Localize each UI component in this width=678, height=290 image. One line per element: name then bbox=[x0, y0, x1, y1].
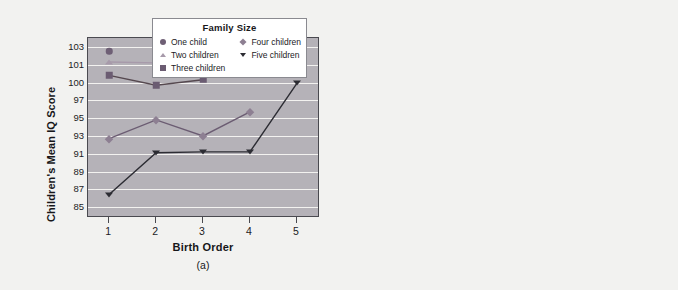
x-tick-mark bbox=[249, 217, 250, 223]
y-tick-label: 91 bbox=[56, 147, 84, 158]
triangle-up-marker-icon bbox=[158, 50, 167, 59]
triangle-up-marker-icon bbox=[160, 53, 166, 57]
panel-label-a: (a) bbox=[87, 259, 319, 271]
legend-item-two-children[interactable]: Two children bbox=[158, 49, 238, 60]
legend-item-label: Two children bbox=[171, 50, 219, 60]
legend-item-label: Four children bbox=[251, 37, 301, 47]
triangle-down-marker-icon bbox=[105, 192, 113, 197]
circle-marker-icon bbox=[106, 48, 113, 55]
series-line bbox=[109, 62, 156, 63]
legend-box: Family Size One childTwo childrenThree c… bbox=[152, 18, 307, 78]
y-tick-label: 87 bbox=[56, 183, 84, 194]
y-tick-label: 93 bbox=[56, 129, 84, 140]
triangle-down-marker-icon bbox=[246, 149, 254, 154]
legend-item-three-children[interactable]: Three children bbox=[158, 62, 238, 73]
legend-item-label: Five children bbox=[251, 50, 299, 60]
x-tick-label: 2 bbox=[145, 225, 165, 237]
x-tick-label: 4 bbox=[239, 225, 259, 237]
triangle-down-marker-icon bbox=[152, 150, 160, 155]
y-axis-ticks-a: 10310110097959391898785 bbox=[56, 37, 84, 217]
legend-item-label: One child bbox=[171, 37, 207, 47]
x-axis-title-a: Birth Order bbox=[87, 241, 319, 253]
diamond-marker-icon bbox=[239, 38, 246, 45]
y-tick-label: 97 bbox=[56, 94, 84, 105]
diamond-marker-icon bbox=[238, 37, 247, 46]
x-tick-mark bbox=[155, 217, 156, 223]
square-marker-icon bbox=[153, 82, 160, 89]
square-marker-icon bbox=[160, 65, 166, 71]
triangle-up-marker-icon bbox=[105, 60, 113, 65]
figure-container: Children's Mean IQ Score 103101100979593… bbox=[0, 0, 678, 290]
legend-item-label: Three children bbox=[171, 63, 225, 73]
legend-column: Four childrenFive children bbox=[238, 36, 301, 73]
legend-item-five-children[interactable]: Five children bbox=[238, 49, 301, 60]
square-marker-icon bbox=[106, 72, 113, 79]
chart-panel-b: Mothers' Mean IQ Percentile 444240383634… bbox=[339, 0, 678, 290]
triangle-down-marker-icon bbox=[199, 149, 207, 154]
circle-marker-icon bbox=[160, 39, 166, 45]
x-tick-label: 1 bbox=[98, 225, 118, 237]
y-tick-label: 103 bbox=[56, 40, 84, 51]
y-tick-label: 85 bbox=[56, 201, 84, 212]
x-tick-mark bbox=[296, 217, 297, 223]
y-tick-label: 89 bbox=[56, 165, 84, 176]
triangle-down-marker-icon bbox=[238, 50, 247, 59]
series-line bbox=[109, 112, 250, 139]
y-tick-label: 101 bbox=[56, 58, 84, 69]
legend-items: One childTwo childrenThree childrenFour … bbox=[158, 36, 301, 73]
y-tick-label: 95 bbox=[56, 112, 84, 123]
x-tick-mark bbox=[202, 217, 203, 223]
legend-item-one-child[interactable]: One child bbox=[158, 36, 238, 47]
x-tick-label: 5 bbox=[286, 225, 306, 237]
legend-column: One childTwo childrenThree children bbox=[158, 36, 238, 73]
square-marker-icon bbox=[158, 63, 167, 72]
x-tick-mark bbox=[108, 217, 109, 223]
triangle-down-marker-icon bbox=[240, 53, 246, 57]
legend-item-four-children[interactable]: Four children bbox=[238, 36, 301, 47]
circle-marker-icon bbox=[158, 37, 167, 46]
y-tick-label: 100 bbox=[56, 76, 84, 87]
legend-title: Family Size bbox=[158, 22, 301, 33]
triangle-down-marker-icon bbox=[293, 81, 301, 86]
x-tick-label: 3 bbox=[192, 225, 212, 237]
